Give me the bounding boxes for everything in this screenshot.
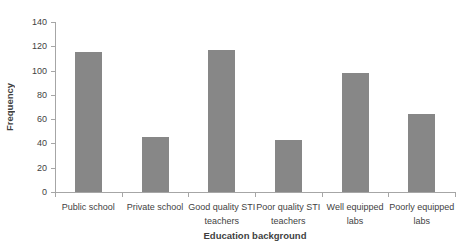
x-category-label-0: Public school: [50, 201, 126, 215]
y-tick-mark: [51, 95, 55, 96]
x-tick-mark: [255, 193, 256, 197]
bar-good-quality-sti-teachers: [208, 50, 235, 192]
bar-well-equipped-labs: [342, 73, 369, 192]
x-tick-mark: [122, 193, 123, 197]
x-category-label-3: Poor quality STI teachers: [250, 201, 326, 228]
y-tick-mark: [51, 46, 55, 47]
x-tick-mark: [188, 193, 189, 197]
y-tick-mark: [51, 22, 55, 23]
x-tick-mark: [322, 193, 323, 197]
y-tick-label: 40: [0, 137, 47, 149]
y-tick-mark: [51, 143, 55, 144]
bar-poorly-equipped-labs: [408, 114, 435, 192]
y-tick-mark: [51, 168, 55, 169]
y-tick-label: 100: [0, 65, 47, 77]
y-tick-label: 60: [0, 113, 47, 125]
y-tick-label: 140: [0, 16, 47, 28]
bar-private-school: [142, 137, 169, 192]
x-category-label-4: Well equipped labs: [317, 201, 393, 228]
x-category-label-5: Poorly equipped labs: [384, 201, 460, 228]
bar-chart: Frequency Education background 020406080…: [0, 0, 472, 249]
bar-poor-quality-sti-teachers: [275, 140, 302, 192]
x-category-label-1: Private school: [117, 201, 193, 215]
x-tick-mark: [55, 193, 56, 197]
y-tick-mark: [51, 71, 55, 72]
y-tick-label: 20: [0, 162, 47, 174]
y-tick-label: 80: [0, 89, 47, 101]
bar-public-school: [75, 52, 102, 192]
x-tick-mark: [455, 193, 456, 197]
x-axis-title: Education background: [55, 230, 455, 241]
x-category-label-2: Good quality STI teachers: [184, 201, 260, 228]
x-tick-mark: [388, 193, 389, 197]
plot-area: [55, 22, 456, 193]
y-tick-label: 0: [0, 186, 47, 198]
y-tick-label: 120: [0, 40, 47, 52]
y-tick-mark: [51, 119, 55, 120]
